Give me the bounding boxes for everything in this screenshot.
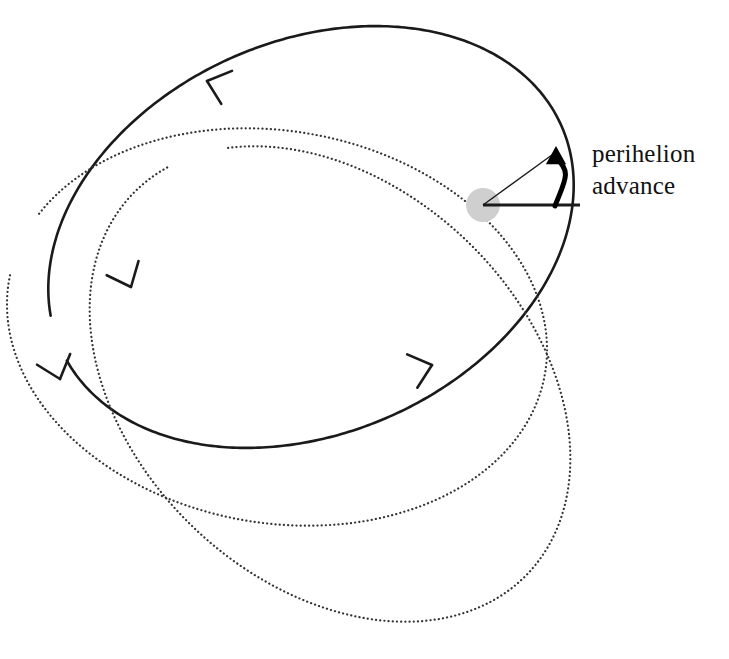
perihelion-advance-arrow — [555, 158, 565, 206]
arrowhead-dotted-left-stroke-1 — [37, 365, 60, 379]
arrowhead-bottom-stroke-2 — [407, 354, 432, 365]
perihelion-advance-arrowhead — [546, 146, 566, 164]
arrowhead-top-left-stroke-2 — [207, 81, 221, 104]
direction-markers-group — [37, 71, 432, 388]
perihelion-advance-label-line2: advance — [592, 171, 675, 201]
orbit-dotted-outer — [90, 146, 571, 621]
orbits-group — [7, 26, 574, 622]
arrowhead-dotted-left-stroke-2 — [60, 354, 70, 379]
arrowhead-left-stroke-1 — [107, 275, 131, 287]
arrowhead-bottom-stroke-1 — [417, 365, 432, 388]
arrowhead-left-stroke-2 — [131, 261, 138, 287]
perihelion-advance-label-line1: perihelion — [592, 139, 695, 169]
orbit-dotted-inner — [7, 128, 547, 525]
orbit-diagram-svg — [0, 0, 729, 659]
orbit-solid — [48, 26, 573, 448]
arrowhead-top-left-stroke-1 — [207, 71, 232, 81]
diagram-canvas: perihelion advance — [0, 0, 729, 659]
advanced-perihelion-line — [483, 152, 556, 205]
